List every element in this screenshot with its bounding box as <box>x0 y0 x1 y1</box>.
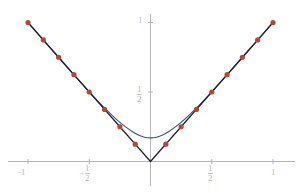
data-point <box>209 89 214 94</box>
data-point <box>179 124 184 129</box>
numerator: 1 <box>85 164 90 173</box>
data-point <box>133 142 138 147</box>
ytick-label-one: 1 <box>138 16 143 25</box>
numerator: 1 <box>208 164 213 173</box>
data-point <box>87 89 92 94</box>
data-point <box>224 72 229 77</box>
denominator: 2 <box>137 95 142 104</box>
data-point <box>102 107 107 112</box>
plot-canvas: -1 − 1 2 1 2 1 1 1 2 <box>0 0 303 193</box>
numerator: 1 <box>137 85 142 94</box>
xtick-label-neg-one: -1 <box>18 168 26 177</box>
xtick-label-half: 1 2 <box>208 164 213 184</box>
data-point <box>270 20 275 25</box>
data-point <box>25 20 30 25</box>
xtick-label-neg-half: − 1 2 <box>79 164 90 184</box>
denominator: 2 <box>85 174 90 183</box>
ytick-label-half: 1 2 <box>137 85 142 105</box>
chart-svg <box>0 0 303 193</box>
data-point <box>194 107 199 112</box>
data-point <box>255 37 260 42</box>
data-point <box>41 37 46 42</box>
denominator: 2 <box>208 174 213 183</box>
data-point <box>117 124 122 129</box>
data-point <box>240 55 245 60</box>
xtick-label-one: 1 <box>271 168 276 177</box>
data-point <box>71 72 76 77</box>
data-point <box>56 55 61 60</box>
data-point <box>163 142 168 147</box>
